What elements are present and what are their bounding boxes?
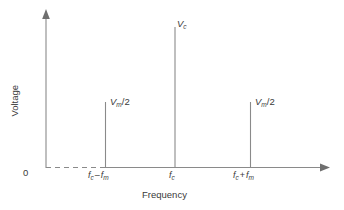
peak-usb-sub: m [261, 101, 266, 108]
tick-upper-operator: + [239, 170, 246, 180]
peak-label-lower-sideband: Vm/2 [110, 97, 130, 107]
tick-lower-sub2: m [103, 174, 108, 181]
peak-lsb-suffix: /2 [122, 96, 130, 107]
y-axis-title: Voltage [10, 71, 20, 131]
peak-usb-suffix: /2 [267, 96, 275, 107]
origin-label: 0 [23, 168, 28, 178]
x-axis-arrowhead [320, 164, 330, 172]
y-axis-title-text: Voltage [9, 85, 20, 117]
y-axis-arrowhead [42, 9, 50, 19]
origin-label-text: 0 [23, 167, 28, 178]
tick-lower-sub1: c [91, 174, 94, 181]
x-axis-title-text: Frequency [142, 189, 187, 200]
x-axis-title: Frequency [142, 190, 187, 200]
am-spectrum-figure: Voltage Frequency 0 fc–fm fc fc+fm Vm/2 … [0, 0, 344, 210]
tick-label-carrier: fc [169, 171, 175, 180]
tick-upper-sub2: m [249, 174, 254, 181]
peak-lsb-sub: m [116, 101, 121, 108]
tick-lower-operator: – [94, 170, 101, 180]
tick-carrier-sub: c [172, 174, 175, 181]
peak-label-carrier: Vc [177, 19, 187, 29]
tick-upper-sub1: c [236, 174, 239, 181]
tick-label-lower-sideband: fc–fm [88, 171, 109, 180]
peak-label-upper-sideband: Vm/2 [255, 97, 275, 107]
peak-carrier-sub: c [183, 23, 186, 30]
tick-label-upper-sideband: fc+fm [233, 171, 254, 180]
